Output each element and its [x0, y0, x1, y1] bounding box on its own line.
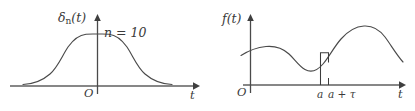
left-y-axis-arrowhead: [94, 14, 101, 21]
right-panel-group: [241, 14, 406, 93]
left-origin-label: O: [84, 88, 93, 100]
tick-label-a: a: [317, 89, 323, 100]
left-y-axis-label: δn(t): [58, 12, 86, 26]
right-wave-curve: [241, 26, 403, 71]
left-y-axis-label-arg: (t): [71, 10, 86, 25]
left-x-axis-label: t: [190, 90, 195, 102]
right-origin-label: O: [237, 87, 246, 99]
tick-label-a-plus-tau: a + τ: [328, 89, 356, 100]
right-y-axis-label: f(t): [222, 13, 241, 26]
left-annotation-n-equals-10: n = 10: [104, 27, 146, 40]
right-x-axis-label: t: [398, 89, 403, 101]
right-y-axis-arrowhead: [247, 14, 254, 21]
left-y-axis-label-delta: δ: [58, 10, 66, 25]
figure-root: δn(t) n = 10 O t f(t) O a a + τ t: [0, 0, 415, 111]
